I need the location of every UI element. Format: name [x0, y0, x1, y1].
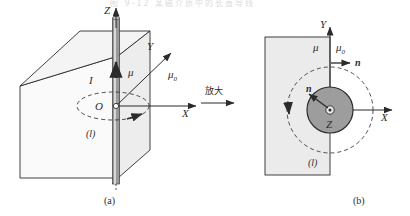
loop-label-a: (l): [86, 128, 96, 140]
loop-direction-arrow-b: [288, 102, 289, 114]
physics-figure: Z Y X O I μ μ0 (l) (a) 放大 Y: [0, 0, 410, 216]
transition-group: 放大: [201, 85, 234, 103]
wire-highlight: [114, 18, 116, 184]
axis-z-label: Z: [104, 4, 111, 16]
permeability-mu-label-a: μ: [127, 66, 134, 78]
origin-label: O: [95, 100, 103, 112]
normal-label-outer: n: [355, 57, 361, 68]
caption-b: (b): [353, 195, 365, 207]
loop-label-b: (l): [308, 157, 318, 169]
caption-a: (a): [104, 195, 115, 207]
permeability-mu0-label-a: μ0: [167, 68, 178, 83]
panel-b: Y X Z μ μ0 n n (l) (b): [265, 18, 392, 207]
transition-label: 放大: [205, 85, 223, 96]
panel-a: Z Y X O I μ μ0 (l) (a): [20, 4, 196, 207]
box-right-face: [118, 31, 150, 178]
axis-x-label: X: [181, 107, 190, 119]
axis-y-label: Y: [147, 40, 155, 52]
normal-label-inner: n: [306, 83, 312, 94]
axis-x-label-b: X: [380, 111, 389, 123]
permeability-mu0-label-b: μ0: [335, 41, 346, 56]
axis-z-label-b: Z: [326, 118, 333, 130]
origin-point: [113, 103, 118, 108]
current-out-of-page-dot: [329, 109, 332, 112]
permeability-mu-label-b: μ: [312, 41, 319, 53]
axis-y-label-b: Y: [320, 18, 328, 30]
